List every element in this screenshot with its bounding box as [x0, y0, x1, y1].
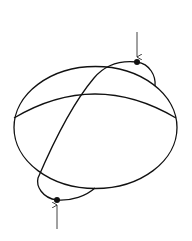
equator-arc — [14, 94, 176, 118]
bottom-pole-dot — [54, 197, 60, 203]
sphere-outline — [14, 67, 177, 189]
diagram-svg — [0, 0, 192, 241]
sphere-diagram — [0, 0, 192, 241]
top-pole-dot — [134, 59, 140, 65]
